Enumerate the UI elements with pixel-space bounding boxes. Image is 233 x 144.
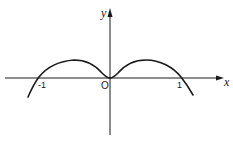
function-plot — [0, 0, 233, 144]
y-axis-label: y — [101, 7, 106, 19]
origin-label: O — [101, 81, 109, 91]
tick-label-neg-one: -1 — [38, 81, 46, 90]
x-axis-arrow-icon — [216, 76, 224, 81]
y-axis-arrow-icon — [108, 8, 113, 17]
x-axis-label: x — [224, 76, 229, 88]
tick-label-pos-one: 1 — [177, 81, 182, 90]
